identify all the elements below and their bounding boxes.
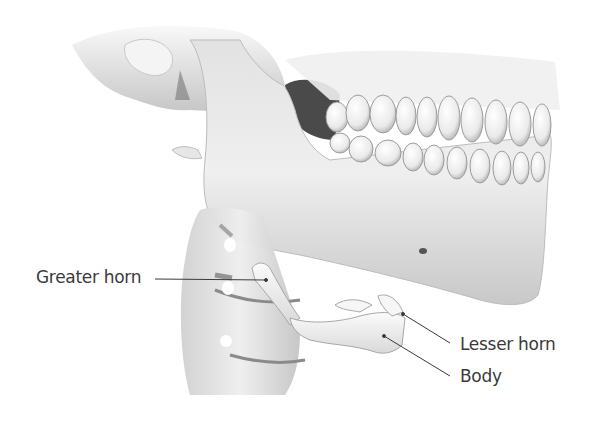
hyoid-illustration <box>0 0 592 430</box>
label-body: Body <box>460 366 502 386</box>
lesser-horn-leader-line <box>403 314 450 343</box>
label-lesser-horn: Lesser horn <box>460 334 556 354</box>
mental-foramen <box>419 248 427 254</box>
label-greater-horn: Greater horn <box>36 267 141 287</box>
anatomy-figure: Greater horn Lesser horn Body <box>0 0 592 430</box>
hyoid-body-shape <box>290 313 405 354</box>
body-leader-line <box>384 336 450 376</box>
